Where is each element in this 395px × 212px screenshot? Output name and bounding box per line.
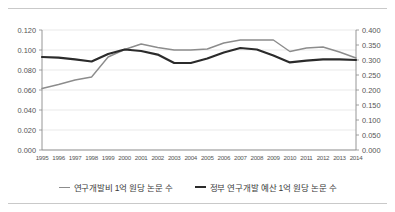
left-tick-label: 0.000 (18, 146, 37, 155)
bottom-divider (8, 203, 387, 204)
legend-line-icon-0 (59, 187, 70, 188)
x-tick-label: 2003 (168, 154, 181, 161)
legend-line-icon-1 (195, 186, 206, 188)
chart-legend: 연구개발비 1억 원당 논문 수 정부 연구개발 예산 1억 원당 논문 수 (0, 176, 395, 198)
left-tick-label: 0.060 (18, 86, 37, 95)
x-tick-label: 2008 (251, 154, 264, 161)
right-tick-label: 0.150 (362, 101, 381, 110)
left-tick-label: 0.040 (18, 106, 37, 115)
x-tick-label: 2011 (300, 154, 313, 161)
x-tick-label: 2012 (317, 154, 330, 161)
left-axis-ticks: 0.0000.0200.0400.0600.0800.1000.120 (18, 26, 43, 155)
right-tick-label: 0.350 (362, 41, 381, 50)
left-tick-label: 0.120 (18, 26, 37, 35)
left-tick-label: 0.020 (18, 126, 37, 135)
right-tick-label: 0.250 (362, 71, 381, 80)
right-axis-ticks: 0.0000.0500.1000.1500.2000.2500.3000.350… (356, 26, 381, 155)
x-tick-label: 2004 (184, 154, 197, 161)
x-tick-label: 2005 (201, 154, 214, 161)
right-tick-label: 0.050 (362, 131, 381, 140)
x-tick-label: 2007 (234, 154, 247, 161)
line-chart-svg: 0.0000.0200.0400.0600.0800.1000.120 0.00… (0, 14, 395, 174)
top-divider (8, 8, 387, 9)
legend-label-1: 정부 연구개발 예산 1억 원당 논문 수 (210, 181, 337, 193)
legend-item-0: 연구개발비 1억 원당 논문 수 (59, 181, 173, 193)
x-tick-label: 1999 (102, 154, 115, 161)
chart-plot-area: 0.0000.0200.0400.0600.0800.1000.120 0.00… (0, 14, 395, 174)
x-tick-label: 1997 (69, 154, 82, 161)
x-tick-label: 2010 (284, 154, 297, 161)
x-tick-label: 2006 (218, 154, 231, 161)
x-axis-tick-labels: 1995199619971998199920002001200220032004… (36, 154, 363, 161)
right-tick-label: 0.400 (362, 26, 381, 35)
right-tick-label: 0.000 (362, 146, 381, 155)
left-tick-label: 0.100 (18, 46, 37, 55)
x-tick-label: 2014 (350, 154, 363, 161)
right-tick-label: 0.300 (362, 56, 381, 65)
left-tick-label: 0.080 (18, 66, 37, 75)
x-tick-label: 2009 (267, 154, 280, 161)
legend-item-1: 정부 연구개발 예산 1억 원당 논문 수 (195, 181, 337, 193)
x-tick-label: 2002 (151, 154, 164, 161)
legend-label-0: 연구개발비 1억 원당 논문 수 (74, 181, 173, 193)
right-tick-label: 0.200 (362, 86, 381, 95)
x-tick-label: 1995 (36, 154, 49, 161)
x-tick-label: 2001 (135, 154, 148, 161)
data-series (42, 40, 356, 89)
x-tick-label: 1998 (85, 154, 98, 161)
right-tick-label: 0.100 (362, 116, 381, 125)
chart-figure: 0.0000.0200.0400.0600.0800.1000.120 0.00… (0, 0, 395, 212)
x-tick-label: 2000 (118, 154, 131, 161)
series-line-0 (42, 40, 356, 89)
x-tick-label: 2013 (333, 154, 346, 161)
x-tick-label: 1996 (52, 154, 65, 161)
